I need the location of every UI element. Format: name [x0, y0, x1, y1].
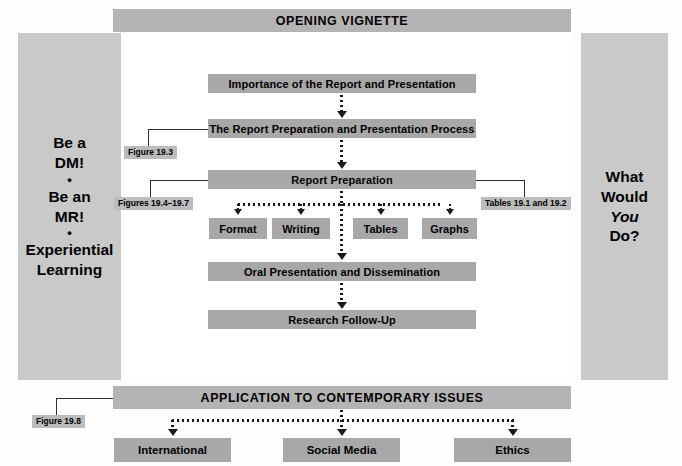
flow-subbox-writing: Writing [272, 218, 330, 239]
arrowhead-oral [337, 253, 347, 260]
application-box-social-media-label: Social Media [307, 444, 377, 456]
flow-box-importance: Importance of the Report and Presentatio… [208, 74, 476, 93]
flow-subbox-writing-label: Writing [282, 223, 320, 235]
figure-tag-194-197: Figures 19.4–19.7 [114, 197, 193, 210]
flow-subbox-graphs: Graphs [422, 218, 477, 239]
arrowhead-followup [337, 302, 347, 309]
connector-importance-to-process [340, 95, 343, 112]
arrowhead-tables [377, 209, 385, 215]
figure-tag-198: Figure 19.8 [32, 415, 85, 428]
left-sidebar-panel: Be a DM! • Be an MR! • Experiential Lear… [18, 33, 121, 380]
bullet-separator-2: • [26, 226, 114, 240]
figure-tag-193: Figure 19.3 [124, 146, 177, 159]
flowchart-diagram: OPENING VIGNETTE Be a DM! • Be an MR! • … [0, 0, 682, 466]
application-header-title: APPLICATION TO CONTEMPORARY ISSUES [201, 391, 484, 405]
left-panel-line-6: Learning [26, 260, 114, 280]
flow-box-report-preparation-label: Report Preparation [291, 174, 392, 186]
connector-process-to-preparation [340, 140, 343, 163]
application-box-ethics: Ethics [454, 438, 571, 462]
flow-box-process: The Report Preparation and Presentation … [208, 119, 476, 138]
figure-tag-tables-191-192-label: Tables 19.1 and 19.2 [485, 198, 567, 208]
arrowhead-graphs [446, 209, 454, 215]
left-panel-line-2: DM! [26, 153, 114, 173]
flow-subbox-graphs-label: Graphs [430, 223, 469, 235]
arrowhead-process [337, 111, 347, 118]
connector-oral-to-followup [340, 283, 343, 303]
flow-box-research-followup-label: Research Follow-Up [288, 314, 396, 326]
flow-subbox-tables: Tables [353, 218, 408, 239]
arrowhead-social-media [337, 429, 347, 436]
left-panel-line-4: MR! [26, 207, 114, 227]
opening-vignette-header: OPENING VIGNETTE [113, 9, 571, 32]
flow-box-oral-presentation: Oral Presentation and Dissemination [208, 262, 476, 281]
flow-subbox-tables-label: Tables [363, 223, 397, 235]
application-box-international: International [114, 438, 231, 462]
right-sidebar-panel: What Would You Do? [581, 33, 668, 380]
left-panel-line-5: Experiential [26, 240, 114, 260]
flow-box-process-label: The Report Preparation and Presentation … [209, 123, 474, 135]
application-box-social-media: Social Media [283, 438, 400, 462]
flow-subbox-format-label: Format [219, 223, 256, 235]
flow-box-report-preparation: Report Preparation [208, 170, 476, 189]
flow-box-oral-presentation-label: Oral Presentation and Dissemination [244, 266, 440, 278]
opening-vignette-title: OPENING VIGNETTE [276, 14, 408, 28]
bullet-separator-1: • [26, 173, 114, 187]
arrowhead-international [168, 429, 178, 436]
arrowhead-preparation [337, 162, 347, 169]
flow-box-research-followup: Research Follow-Up [208, 310, 476, 329]
connector-preparation-to-oral [340, 204, 343, 254]
application-box-ethics-label: Ethics [495, 444, 530, 456]
flow-box-importance-label: Importance of the Report and Presentatio… [228, 78, 455, 90]
application-box-international-label: International [138, 444, 207, 456]
figure-tag-194-197-label: Figures 19.4–19.7 [118, 198, 189, 208]
left-sidebar-text: Be a DM! • Be an MR! • Experiential Lear… [26, 133, 114, 279]
application-header: APPLICATION TO CONTEMPORARY ISSUES [113, 386, 571, 409]
right-panel-line-4: Do? [601, 226, 648, 246]
connector-application-fan [172, 419, 514, 422]
right-panel-line-2: Would [601, 187, 648, 207]
right-sidebar-text: What Would You Do? [601, 167, 648, 246]
arrowhead-format [234, 209, 242, 215]
left-panel-line-1: Be a [26, 133, 114, 153]
arrowhead-ethics [508, 429, 518, 436]
left-panel-line-3: Be an [26, 187, 114, 207]
right-panel-line-3: You [601, 207, 648, 227]
flow-subbox-format: Format [209, 218, 267, 239]
figure-tag-193-label: Figure 19.3 [128, 147, 173, 157]
arrowhead-writing [297, 209, 305, 215]
figure-tag-tables-191-192: Tables 19.1 and 19.2 [481, 197, 571, 210]
figure-tag-198-label: Figure 19.8 [36, 416, 81, 426]
right-panel-line-1: What [601, 167, 648, 187]
